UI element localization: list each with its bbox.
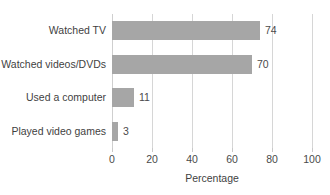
- bar-value-used-a-computer: 11: [134, 88, 150, 107]
- category-label-watched-videos-dvds: Watched videos/DVDs: [0, 48, 106, 82]
- x-axis-title: Percentage: [112, 172, 312, 184]
- x-tick-label-40: 40: [186, 153, 198, 165]
- bar-row: 3: [112, 115, 312, 149]
- x-tick-0: [112, 148, 113, 152]
- bar-used-a-computer: [112, 88, 134, 107]
- x-axis-tick-labels: 0 20 40 60 80 100: [112, 153, 312, 167]
- bar-row: 74: [112, 14, 312, 48]
- bar-value-watched-tv: 74: [260, 21, 277, 40]
- category-axis-labels: Watched TV Watched videos/DVDs Used a co…: [0, 14, 106, 148]
- x-tick-20: [152, 148, 153, 152]
- bar-watched-tv: [112, 21, 260, 40]
- chart-title: [0, 0, 330, 1]
- x-tick-label-60: 60: [226, 153, 238, 165]
- category-label-watched-tv: Watched TV: [0, 14, 106, 48]
- x-tick-label-20: 20: [146, 153, 158, 165]
- bar-value-played-video-games: 3: [118, 122, 129, 141]
- x-tick-60: [232, 148, 233, 152]
- category-label-used-a-computer: Used a computer: [0, 81, 106, 115]
- x-tick-label-100: 100: [303, 153, 321, 165]
- x-tick-80: [272, 148, 273, 152]
- category-label-played-video-games: Played video games: [0, 115, 106, 149]
- x-tick-label-0: 0: [109, 153, 115, 165]
- x-tick-100: [312, 148, 313, 152]
- bar-value-watched-videos-dvds: 70: [252, 55, 269, 74]
- gridline-100: [312, 14, 313, 148]
- x-tick-40: [192, 148, 193, 152]
- bar-row: 70: [112, 48, 312, 82]
- bar-watched-videos-dvds: [112, 55, 252, 74]
- bar-row: 11: [112, 81, 312, 115]
- plot-area: 74 70 11 3: [112, 14, 312, 148]
- bar-chart: Watched TV Watched videos/DVDs Used a co…: [0, 0, 330, 195]
- x-tick-label-80: 80: [266, 153, 278, 165]
